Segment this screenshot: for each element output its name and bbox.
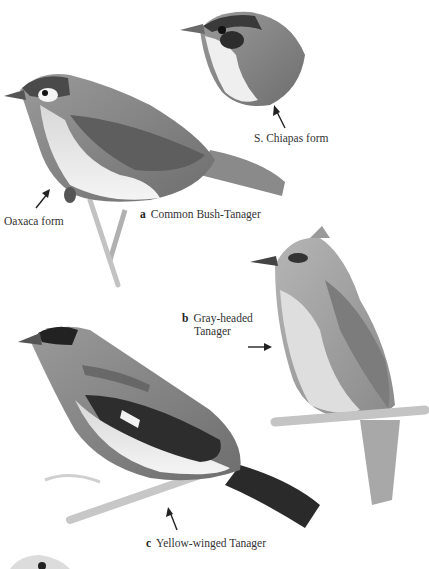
yellow-winged-tanager-illustration [18, 327, 320, 528]
field-guide-plate: S. Chiapas form Oaxaca form aCommon Bush… [0, 0, 429, 569]
arrow-icon [166, 507, 177, 530]
bird-illustrations [0, 0, 429, 569]
arrow-icon [273, 105, 285, 128]
species-letter: b [182, 312, 188, 324]
species-letter: c [146, 537, 151, 549]
species-a-label: aCommon Bush-Tanager [140, 208, 261, 221]
oaxaca-form-label: Oaxaca form [4, 215, 64, 228]
arrow-icon [36, 189, 50, 208]
gray-headed-tanager-illustration [250, 226, 425, 505]
species-b-label-line2: Tanager [194, 325, 231, 338]
chiapas-form-head-illustration [180, 12, 305, 106]
chiapas-form-label: S. Chiapas form [254, 132, 328, 145]
common-bush-tanager-illustration [4, 74, 285, 285]
species-letter: a [140, 208, 146, 220]
species-b-label: bGray-headed [182, 312, 253, 325]
species-c-label: cYellow-winged Tanager [146, 537, 266, 550]
partial-bird-illustration [10, 555, 70, 569]
arrow-icon [248, 343, 272, 351]
